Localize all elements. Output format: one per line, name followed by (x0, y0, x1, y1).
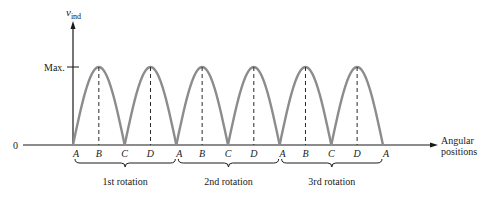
y-axis-arrow-icon (71, 21, 76, 29)
position-label: A (175, 148, 183, 159)
rotation-brace (282, 159, 382, 167)
rotation-label: 1st rotation (103, 176, 148, 187)
rotation-labels: 1st rotation2nd rotation3rd rotation (103, 176, 356, 187)
x-axis-label-line2: positions (441, 146, 477, 157)
rotation-label: 3rd rotation (308, 176, 355, 187)
position-label: B (96, 148, 102, 159)
position-label: C (121, 148, 128, 159)
rotation-label: 2nd rotation (204, 176, 253, 187)
position-label: C (328, 148, 335, 159)
induced-voltage-diagram: ABCDABCDABCDA 1st rotation2nd rotation3r… (0, 0, 486, 199)
max-label: Max. (44, 62, 65, 73)
x-axis-label-line1: Angular (441, 135, 474, 146)
position-label: A (72, 148, 80, 159)
position-label: B (302, 148, 308, 159)
position-label: A (279, 148, 287, 159)
position-label: B (199, 148, 205, 159)
rotation-brace (75, 159, 175, 167)
position-label: C (225, 148, 232, 159)
position-label: A (382, 148, 390, 159)
position-label: D (353, 148, 362, 159)
rotation-braces (75, 159, 382, 167)
y-axis-label: vind (66, 6, 81, 21)
zero-label: 0 (13, 140, 18, 151)
position-labels: ABCDABCDABCDA (72, 148, 390, 159)
voltage-curve (73, 67, 383, 145)
position-label: D (146, 148, 155, 159)
position-label: D (249, 148, 258, 159)
x-axis-arrow-icon (430, 143, 438, 148)
peak-dashed-lines (99, 67, 357, 145)
rotation-brace (178, 159, 278, 167)
